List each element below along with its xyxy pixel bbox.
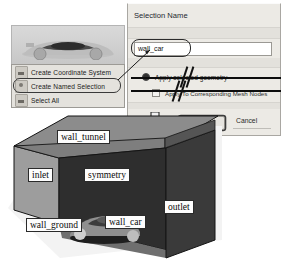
dialog-band (128, 28, 280, 38)
wind-tunnel-model (0, 112, 225, 268)
cancel-underline (233, 128, 271, 129)
menu-item-highlight-annotation (13, 78, 121, 93)
dialog-divider (128, 67, 280, 68)
select-all-icon (15, 94, 28, 107)
annotation-rule (131, 77, 281, 79)
geometry-viewport[interactable] (11, 25, 125, 67)
label-wall-ground: wall_ground (26, 218, 82, 232)
car-geometry-preview (20, 34, 116, 60)
screenshot-root: Create Coordinate System Create Named Se… (0, 0, 281, 268)
menu-item-label: Select All (31, 97, 59, 104)
dialog-band (128, 103, 280, 109)
menu-item-select-all[interactable]: Select All (12, 93, 124, 107)
label-symmetry: symmetry (84, 168, 130, 182)
menu-item-label: Create Coordinate System (31, 69, 111, 76)
input-highlight-annotation (131, 39, 191, 57)
label-wall-car: wall_car (105, 215, 146, 229)
annotation-rule (131, 90, 281, 92)
dialog-title: Selection Name (134, 11, 188, 20)
label-outlet: outlet (164, 200, 194, 214)
label-inlet: inlet (28, 168, 53, 182)
menu-item-create-coordinate-system[interactable]: Create Coordinate System (12, 65, 124, 79)
coordinate-system-icon (15, 66, 28, 79)
cancel-button[interactable]: Cancel (236, 117, 257, 124)
label-wall-tunnel: wall_tunnel (57, 130, 110, 144)
dialog-band (128, 58, 280, 67)
context-menu[interactable]: Create Coordinate System Create Named Se… (11, 64, 125, 108)
dialog-divider (128, 27, 280, 28)
